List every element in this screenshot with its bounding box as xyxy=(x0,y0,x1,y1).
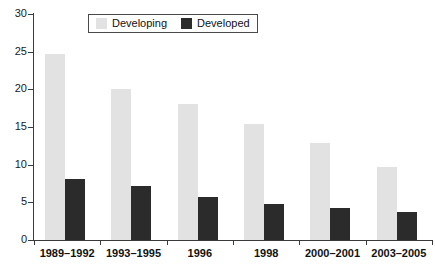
bar-developing-5 xyxy=(377,167,397,240)
y-axis-tick-labels: 051015202530 xyxy=(0,0,27,268)
bar-group xyxy=(34,14,100,240)
x-axis-category-label: 2003–2005 xyxy=(366,247,432,260)
bar-developing-0 xyxy=(45,54,65,240)
bar-developed-3 xyxy=(264,204,284,240)
bar-developed-0 xyxy=(65,179,85,240)
x-axis-category-label: 1989–1992 xyxy=(34,247,100,260)
bar-developed-5 xyxy=(397,212,417,240)
y-axis-tick-label: 15 xyxy=(3,121,27,132)
x-axis-tick xyxy=(100,240,101,245)
legend-label-developed: Developed xyxy=(197,18,250,29)
bar-developed-2 xyxy=(198,197,218,240)
bar-developing-4 xyxy=(310,143,330,240)
x-axis-tick xyxy=(167,240,168,245)
y-axis-tick-label: 20 xyxy=(3,83,27,94)
bar-group xyxy=(167,14,233,240)
x-axis-tick xyxy=(233,240,234,245)
bar-chart: 051015202530 1989–19921993–1995199619982… xyxy=(0,0,435,268)
x-axis-category-label: 1996 xyxy=(167,247,233,260)
bar-developed-4 xyxy=(330,208,350,240)
y-axis-tick-label: 25 xyxy=(3,46,27,57)
bar-group xyxy=(299,14,365,240)
y-axis-tick-label: 10 xyxy=(3,159,27,170)
x-axis-category-label: 2000–2001 xyxy=(299,247,365,260)
bar-developing-2 xyxy=(178,104,198,240)
legend-swatch-developed-icon xyxy=(181,18,192,29)
bar-group xyxy=(366,14,432,240)
legend-entry-developing: Developing xyxy=(96,18,167,29)
bar-group xyxy=(233,14,299,240)
y-axis-tick-label: 5 xyxy=(3,196,27,207)
legend-swatch-developing-icon xyxy=(96,18,107,29)
x-axis-tick xyxy=(432,240,433,245)
plot-area xyxy=(34,14,432,240)
x-axis-tick xyxy=(299,240,300,245)
bar-developing-3 xyxy=(244,124,264,240)
legend-entry-developed: Developed xyxy=(181,18,250,29)
x-axis-tick xyxy=(34,240,35,245)
bar-developing-1 xyxy=(111,89,131,240)
bar-group xyxy=(100,14,166,240)
x-axis-category-label: 1998 xyxy=(233,247,299,260)
y-axis-tick-label: 30 xyxy=(3,8,27,19)
x-axis-tick xyxy=(366,240,367,245)
bar-developed-1 xyxy=(131,186,151,240)
legend-label-developing: Developing xyxy=(112,18,167,29)
x-axis-category-label: 1993–1995 xyxy=(100,247,166,260)
chart-legend: Developing Developed xyxy=(88,14,258,33)
y-axis-tick-label: 0 xyxy=(3,234,27,245)
